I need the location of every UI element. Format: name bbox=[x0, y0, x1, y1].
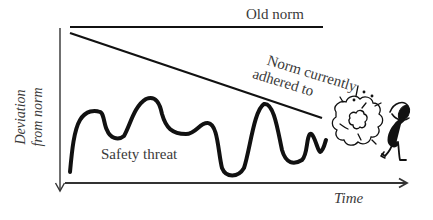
y-axis bbox=[56, 28, 65, 191]
safety-threat-curve bbox=[70, 98, 326, 175]
y-axis-label: Deviation from norm bbox=[12, 74, 46, 160]
startled-person-icon bbox=[381, 103, 412, 160]
x-axis-label: Time bbox=[334, 190, 363, 207]
y-axis-label-line1: Deviation bbox=[12, 74, 29, 160]
safety-threat-label: Safety threat bbox=[101, 146, 177, 163]
y-axis-label-line2: from norm bbox=[29, 74, 46, 160]
old-norm-label: Old norm bbox=[246, 6, 304, 23]
norm-drift-diagram bbox=[0, 0, 433, 220]
x-axis bbox=[65, 179, 407, 188]
